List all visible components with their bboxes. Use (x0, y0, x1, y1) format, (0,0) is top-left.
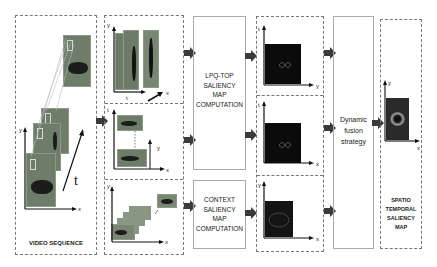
output-label-line-4: MAP (381, 223, 421, 232)
slice3-axis-vertical: y (107, 183, 110, 189)
spatio-temporal-output-panel: y x SPATIO TEMPORAL SALIENCY MAP (380, 19, 422, 249)
lpq-top-saliency-box: LPQ-TOP SALIENCY MAP COMPUTATION (193, 16, 246, 170)
slices-panel: y t x t y x (104, 15, 184, 255)
map3-axis-horizontal: x (316, 236, 319, 242)
output-axis-horizontal: x (417, 145, 420, 151)
output-label-line-1: SPATIO (381, 196, 421, 205)
context-saliency-box: CONTEXT SALIENCY MAP COMPUTATION (193, 180, 246, 249)
output-label-line-3: SALIENCY (381, 214, 421, 223)
map2-axis-horizontal: x (316, 161, 319, 167)
lpq-line-2: SALIENCY (194, 81, 245, 91)
lpq-line-1: LPQ-TOP (194, 71, 245, 81)
frame-connector-lines (16, 16, 98, 256)
video-axis-y-label: y (19, 127, 22, 133)
saliency-map-3: y x (257, 175, 323, 251)
slice-xt: y t x (105, 16, 183, 104)
slice3-axis-horizontal: x (165, 239, 168, 245)
saliency-map-1: t y (257, 17, 323, 96)
video-sequence-label: VIDEO SEQUENCE (16, 239, 96, 247)
fusion-line-3: strategy (334, 136, 373, 147)
fusion-line-2: fusion (334, 125, 373, 136)
context-line-3: MAP (194, 214, 245, 224)
fusion-line-1: Dynamic (334, 114, 373, 125)
video-axis-x-label: x (78, 206, 81, 212)
map2-axis-vertical: t (258, 102, 260, 108)
map3-axis-vertical: y (258, 182, 261, 188)
context-line-2: SALIENCY (194, 205, 245, 215)
context-line-4: COMPUTATION (194, 224, 245, 234)
saliency-map-2: t x (257, 95, 323, 176)
slice2-axis-vertical: t (107, 107, 109, 113)
dynamic-fusion-box: Dynamic fusion strategy (333, 16, 374, 249)
slice2-axis-depth: y (157, 145, 160, 151)
video-sequence-panel: y x t VIDEO SEQUENCE (15, 15, 97, 255)
saliency-maps-panel: t y t x y x (256, 16, 324, 252)
slice2-axis-horizontal: x (166, 167, 169, 173)
map1-axis-horizontal: y (316, 83, 319, 89)
slice-xy: y x (105, 180, 183, 254)
output-label-line-2: TEMPORAL (381, 205, 421, 214)
slice-yt: t y x (105, 103, 183, 180)
video-axis-t-label: t (74, 174, 78, 187)
lpq-line-4: COMPUTATION (194, 100, 245, 110)
slice1-axis-horizontal: t (126, 95, 128, 101)
output-axis-vertical: y (388, 80, 391, 86)
map1-axis-vertical: t (258, 26, 260, 32)
slice1-axis-vertical: y (107, 22, 110, 28)
lpq-line-3: MAP (194, 90, 245, 100)
context-line-1: CONTEXT (194, 195, 245, 205)
slice1-axis-depth: x (166, 90, 169, 96)
